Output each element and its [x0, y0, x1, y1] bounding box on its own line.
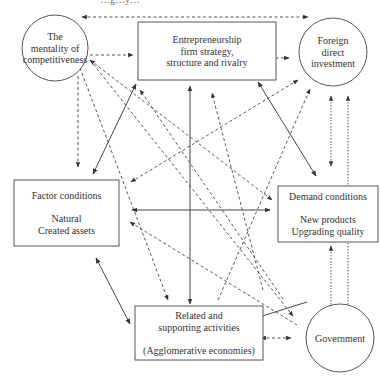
node-factor-label-line: Natural [52, 213, 82, 224]
node-government: Government [306, 304, 374, 372]
node-government-label-line: Government [315, 333, 365, 344]
node-entrepreneurship: Entrepreneurshipfirm strategy,structure … [138, 22, 276, 80]
node-mentality: Thementality ofcompetitiveness [22, 15, 88, 81]
node-entrepreneurship-label-line: Entrepreneurship [173, 34, 242, 45]
node-mentality-label-line: competitiveness [23, 54, 88, 65]
node-related-label-line: Related and [175, 310, 222, 321]
node-demand-label-line: New products [300, 214, 356, 225]
edge-related-to-entrepreneurship [212, 93, 263, 290]
node-factor-label-line: Created assets [38, 225, 95, 236]
edge-factor-to-related [96, 258, 130, 324]
node-entrepreneurship-label-line: structure and rivalry [166, 57, 247, 68]
edge-factor-to-fdi [131, 80, 298, 182]
edge-mentality-to-demand [90, 60, 272, 200]
node-fdi-label-line: investment [311, 58, 355, 69]
node-factor: Factor conditionsNaturalCreated assets [14, 180, 119, 246]
node-fdi-label-line: direct [322, 47, 345, 58]
node-factor-label-line: Factor conditions [32, 190, 102, 201]
node-demand: Demand conditionsNew productsUpgrading q… [278, 186, 378, 242]
node-mentality-label-line: The [47, 31, 63, 42]
porter-diamond-diagram: Thementality ofcompetitivenessEntreprene… [0, 0, 380, 384]
node-fdi: Foreigndirectinvestment [299, 18, 367, 86]
edge-mentality-to-government [90, 60, 293, 316]
node-mentality-label-line: mentality of [31, 43, 80, 54]
node-related: Related andsupporting activities(Agglome… [135, 306, 263, 360]
node-demand-label-line: Demand conditions [289, 191, 367, 202]
nodes-layer: Thementality ofcompetitivenessEntreprene… [14, 15, 378, 372]
node-entrepreneurship-label-line: firm strategy, [180, 46, 233, 57]
node-demand-label-line: Upgrading quality [291, 226, 364, 237]
node-fdi-label-line: Foreign [317, 35, 348, 46]
node-related-label-line: supporting activities [158, 322, 239, 333]
edge-government-to-entrepreneurship [140, 90, 283, 299]
edge-factor-to-entrepreneurship [93, 84, 136, 174]
node-related-label-line: (Agglomerative economies) [143, 345, 255, 357]
